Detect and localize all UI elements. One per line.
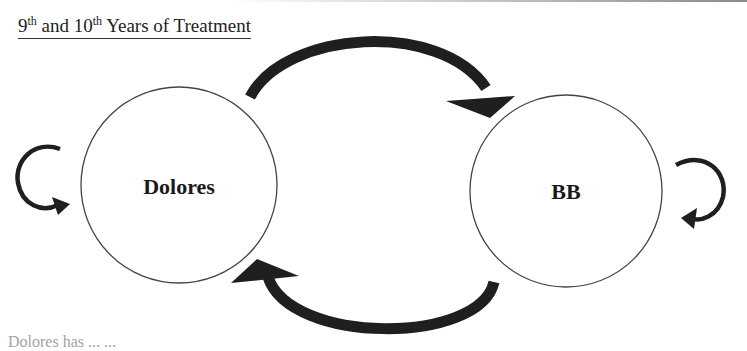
node-label-bb: BB [551, 179, 580, 205]
arrow-bb-to-dolores-icon [231, 259, 494, 329]
node-label-dolores: Dolores [143, 174, 215, 200]
self-loop-dolores-icon [18, 147, 70, 215]
self-loop-bb-icon [676, 160, 724, 229]
footer-partial-text: Dolores has ... ... [8, 333, 116, 351]
arrow-dolores-to-bb-icon [250, 42, 515, 118]
